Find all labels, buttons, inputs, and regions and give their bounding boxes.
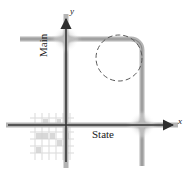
street-label-state: State <box>92 129 114 140</box>
street-map-figure: Main State x y <box>0 0 191 173</box>
x-axis-label: x <box>178 117 182 126</box>
road-corner-curve <box>131 39 142 50</box>
y-axis-label: y <box>70 7 74 16</box>
figure-canvas <box>0 0 191 173</box>
street-label-main: Main <box>38 34 49 57</box>
